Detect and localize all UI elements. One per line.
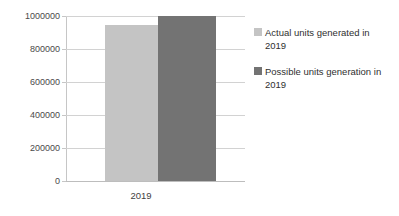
y-tick-label: 1000000 — [2, 12, 60, 21]
y-tick-label: 600000 — [2, 78, 60, 87]
y-tick-label: 200000 — [2, 144, 60, 153]
y-tick-label: 0 — [2, 177, 60, 186]
y-tick-label: 400000 — [2, 111, 60, 120]
legend-item-possible[interactable]: Possible units generation in 2019 — [254, 65, 399, 91]
legend-swatch-icon — [254, 67, 262, 75]
bar-actual-units-2019[interactable] — [105, 25, 158, 181]
y-tick-label: 800000 — [2, 45, 60, 54]
chart-legend: Actual units generated in 2019 Possible … — [254, 26, 399, 104]
plot-area — [66, 16, 245, 181]
bar-chart: 1000000 800000 600000 400000 200000 0 20… — [0, 0, 399, 216]
legend-item-actual[interactable]: Actual units generated in 2019 — [254, 26, 399, 52]
legend-label: Actual units generated in 2019 — [265, 26, 393, 52]
x-axis-category-label: 2019 — [66, 190, 216, 201]
legend-label: Possible units generation in 2019 — [265, 65, 393, 91]
x-axis-baseline — [66, 181, 245, 182]
legend-swatch-icon — [254, 28, 262, 36]
gridline — [66, 16, 245, 17]
y-axis-labels: 1000000 800000 600000 400000 200000 0 — [0, 0, 60, 216]
bar-possible-units-2019[interactable] — [158, 16, 216, 181]
